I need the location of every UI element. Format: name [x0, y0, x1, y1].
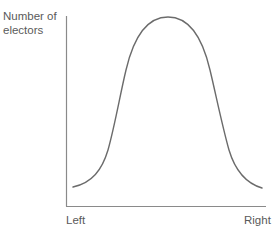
x-axis-left-label: Left — [66, 213, 85, 227]
distribution-curve — [73, 17, 262, 188]
chart-figure: Number of electors Left Right — [0, 0, 280, 242]
plot-area — [0, 0, 280, 242]
x-axis-right-label: Right — [244, 213, 271, 227]
